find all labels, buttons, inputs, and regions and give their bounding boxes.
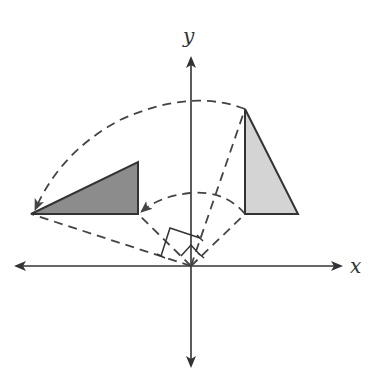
inner-rotation-arc xyxy=(141,193,245,214)
y-axis-label: y xyxy=(182,24,195,48)
radius-to-image-far-vertex xyxy=(31,214,191,266)
rotation-diagram: x y xyxy=(0,0,387,381)
preimage-triangle xyxy=(245,109,298,214)
radius-to-preimage-right-angle xyxy=(191,214,245,266)
x-axis-label: x xyxy=(350,254,361,278)
right-angle-markers xyxy=(157,228,204,258)
axes: x y xyxy=(16,24,361,366)
radius-to-preimage-top-vertex xyxy=(191,109,245,266)
